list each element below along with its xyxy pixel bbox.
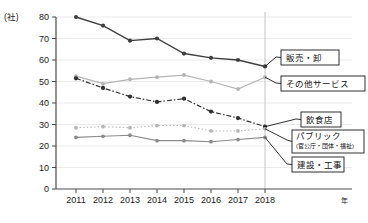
series-marker <box>182 51 186 55</box>
x-axis-ticks: 20112012201320142015201620172018 <box>66 189 275 205</box>
line-chart: 01020304050607080 2011201220132014201520… <box>0 0 368 223</box>
x-tick-label: 2015 <box>174 195 194 205</box>
callout-leader-line <box>265 77 281 83</box>
series-marker <box>101 82 105 86</box>
callout-leader-line <box>265 129 292 142</box>
y-tick-label: 0 <box>44 184 49 194</box>
callout-sonota[interactable]: その他サービス <box>265 76 365 91</box>
x-tick-label: 2013 <box>120 195 140 205</box>
x-axis-unit-label: 年 <box>341 196 348 205</box>
series-marker <box>155 75 159 79</box>
series-marker <box>74 76 78 80</box>
series-marker <box>209 80 213 84</box>
series-marker <box>101 134 105 138</box>
y-tick-label: 80 <box>39 12 49 22</box>
x-tick-label: 2017 <box>228 195 248 205</box>
callout-leader-line <box>265 57 281 67</box>
callout-label: その他サービス <box>286 79 349 89</box>
series-marker <box>128 126 132 130</box>
series-marker <box>209 56 213 60</box>
series-0 <box>74 15 267 69</box>
x-tick-label: 2011 <box>66 195 85 205</box>
series-marker <box>182 97 186 101</box>
series-marker <box>155 139 159 143</box>
x-tick-label: 2012 <box>93 195 113 205</box>
series-marker <box>182 139 186 143</box>
y-axis-ticks: 01020304050607080 <box>39 12 56 194</box>
series-marker <box>101 86 105 90</box>
series-marker <box>128 39 132 43</box>
series-marker <box>155 36 159 40</box>
y-axis-unit-label: (社) <box>4 12 19 22</box>
series-marker <box>236 138 240 142</box>
callout-hanbai[interactable]: 販売・卸 <box>265 50 339 67</box>
series-marker <box>236 129 240 133</box>
y-tick-label: 40 <box>39 98 49 108</box>
callout-sublabel: (官公庁・団体・福祉) <box>296 142 354 150</box>
series-marker <box>182 124 186 128</box>
callout-leader-line <box>265 137 292 164</box>
chart-canvas: 01020304050607080 2011201220132014201520… <box>0 0 368 223</box>
series-3 <box>74 124 267 133</box>
y-tick-label: 10 <box>39 163 49 173</box>
series-marker <box>101 24 105 28</box>
series-marker <box>182 73 186 77</box>
x-tick-label: 2018 <box>255 195 275 205</box>
callout-public[interactable]: パブリック(官公庁・団体・福祉) <box>265 129 364 153</box>
x-tick-label: 2014 <box>147 195 167 205</box>
series-marker <box>209 129 213 133</box>
series-marker <box>128 133 132 137</box>
callout-label: 建設・工事 <box>297 160 342 170</box>
y-tick-label: 70 <box>39 34 49 44</box>
series-marker <box>74 126 78 130</box>
callout-label: 販売・卸 <box>286 53 322 63</box>
series-marker <box>128 77 132 81</box>
series-marker <box>209 140 213 144</box>
series-marker <box>155 124 159 128</box>
series-marker <box>236 87 240 91</box>
series-marker <box>128 94 132 98</box>
series-marker <box>74 136 78 140</box>
x-tick-label: 2016 <box>201 195 221 205</box>
series-marker <box>101 125 105 129</box>
series-marker <box>209 110 213 114</box>
series-marker <box>236 116 240 120</box>
series-marker <box>236 58 240 62</box>
y-tick-label: 60 <box>39 55 49 65</box>
series-marker <box>155 100 159 104</box>
series-marker <box>74 15 78 19</box>
series-4 <box>74 133 267 143</box>
callout-layer: 販売・卸その他サービス飲食店パブリック(官公庁・団体・福祉)建設・工事 <box>265 50 365 172</box>
y-tick-label: 50 <box>39 77 49 87</box>
callout-leader-line <box>265 119 301 127</box>
y-tick-label: 20 <box>39 141 49 151</box>
callout-label: パブリック <box>296 131 341 141</box>
y-tick-label: 30 <box>39 120 49 130</box>
callout-label: 飲食店 <box>306 115 333 125</box>
